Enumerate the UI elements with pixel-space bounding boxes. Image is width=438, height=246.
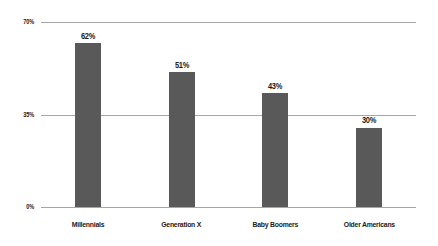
bar-value-generation-x: 51% [175, 61, 189, 70]
bar-chart: 70% 35% 0% 62% 51% 43% 30% Millennials G… [0, 0, 438, 246]
y-tick-label-0: 0% [8, 204, 34, 211]
x-label-baby-boomers: Baby Boomers [229, 221, 323, 229]
bar-series: 62% 51% 43% 30% [41, 22, 416, 207]
bar-value-millennials: 62% [81, 32, 95, 41]
axis-baseline-0 [41, 207, 416, 208]
bar-baby-boomers[interactable] [262, 93, 288, 207]
bar-generation-x[interactable] [169, 72, 195, 207]
x-label-baby-boomers-text: Baby Boomers [253, 221, 299, 229]
x-label-generation-x: Generation X [135, 221, 229, 229]
x-label-older-americans: Older Americans [322, 221, 416, 229]
bar-slot-baby-boomers: 43% [229, 22, 323, 207]
x-axis-labels: Millennials Generation X Baby Boomers Ol… [41, 221, 416, 235]
bar-value-baby-boomers: 43% [268, 82, 282, 91]
bar-millennials[interactable] [75, 43, 101, 207]
bar-slot-millennials: 62% [41, 22, 135, 207]
y-tick-label-70: 70% [8, 19, 34, 26]
x-label-generation-x-text: Generation X [162, 221, 202, 229]
bar-older-americans[interactable] [356, 128, 382, 207]
bar-value-older-americans: 30% [362, 116, 376, 125]
bar-slot-generation-x: 51% [135, 22, 229, 207]
x-label-millennials-text: Millennials [72, 221, 104, 229]
x-label-older-americans-text: Older Americans [344, 221, 395, 229]
x-label-millennials: Millennials [41, 221, 135, 229]
y-tick-label-35: 35% [8, 112, 34, 119]
bar-slot-older-americans: 30% [322, 22, 416, 207]
